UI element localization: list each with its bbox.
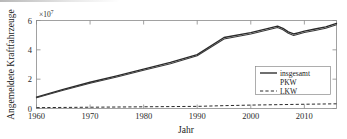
x-tick-marks bbox=[37, 21, 305, 109]
x-tick-label: 2010 bbox=[296, 111, 313, 121]
legend-label-lkw: LKW bbox=[280, 87, 298, 96]
x-tick-label: 1960 bbox=[28, 111, 45, 121]
series-line-lkw bbox=[37, 104, 337, 108]
x-tick-label: 1990 bbox=[189, 111, 206, 121]
y-axis-exponent: ×107 bbox=[39, 9, 54, 19]
chart-canvas: 0 2 4 6 ×107 1960 1970 1980 1990 2000 20… bbox=[0, 0, 347, 139]
legend-label-insgesamt: insgesamt bbox=[280, 69, 311, 78]
chart-legend[interactable]: insgesamt PKW LKW bbox=[256, 67, 331, 96]
y-axis-exponent-base: ×10 bbox=[39, 10, 51, 19]
y-axis-exponent-power: 7 bbox=[51, 9, 54, 15]
legend-label-pkw: PKW bbox=[280, 78, 298, 87]
x-tick-label: 1980 bbox=[135, 111, 152, 121]
y-tick-label: 2 bbox=[28, 74, 32, 84]
x-axis-title: Jahr bbox=[178, 125, 195, 135]
x-tick-label: 1970 bbox=[82, 111, 99, 121]
y-axis-title: Angemeldete Kraftfahrzeuge bbox=[6, 9, 16, 120]
chart-figure: 0 2 4 6 ×107 1960 1970 1980 1990 2000 20… bbox=[0, 0, 347, 139]
y-tick-label: 4 bbox=[28, 45, 33, 55]
y-tick-label: 6 bbox=[28, 16, 32, 26]
x-tick-label: 2000 bbox=[242, 111, 259, 121]
